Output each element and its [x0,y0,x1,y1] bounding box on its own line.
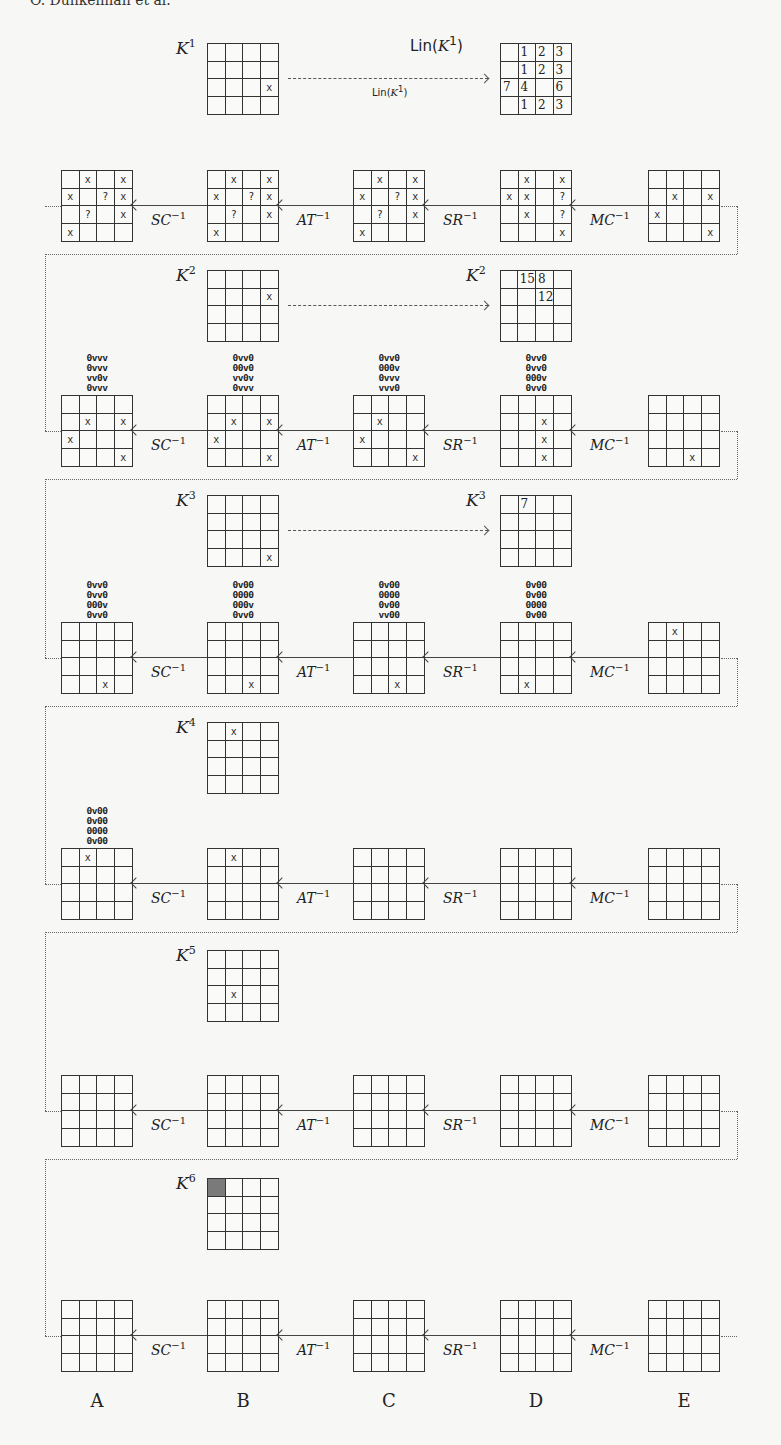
state-byte-cell [649,676,667,694]
pattern-line: 0vvv [207,383,279,393]
state-byte-cell [226,289,244,307]
state-byte-cell [261,1129,279,1147]
state-byte-cell [97,171,115,189]
target-grid-0: 123123746123 [500,43,572,115]
op-label-SC: SC−1 [151,1115,186,1133]
state-byte-cell [554,1336,572,1354]
state-byte-cell [519,658,537,676]
state-byte-cell [554,496,572,514]
state-byte-cell [684,676,702,694]
state-byte-cell [226,62,244,80]
operation-arrow [133,883,207,884]
state-byte-cell [243,1214,261,1232]
state-byte-cell [372,224,390,242]
state-byte-cell [389,1094,407,1112]
state-byte-cell [243,224,261,242]
state-byte-cell [243,1004,261,1022]
state-byte-cell [354,849,372,867]
state-byte-cell [261,44,279,62]
state-byte-cell [536,902,554,920]
operation-arrow [572,883,648,884]
state-byte-cell [372,676,390,694]
state-byte-cell [62,902,80,920]
state-byte-cell [62,641,80,659]
state-byte-cell [226,676,244,694]
state-byte-cell [243,514,261,532]
difference-pattern: 0v000v0000000v00 [61,806,133,846]
state-byte-cell [501,549,519,567]
state-byte-cell [554,396,572,414]
state-byte-cell [261,1076,279,1094]
state-byte-cell: x [80,849,98,867]
state-byte-cell [536,189,554,207]
state-byte-cell [261,271,279,289]
op-label-AT: AT−1 [297,888,330,906]
state-byte-cell [649,171,667,189]
pattern-line: 0vv0 [500,383,572,393]
state-byte-cell [261,623,279,641]
state-byte-cell [243,97,261,115]
state-byte-cell [243,79,261,97]
state-byte-cell [62,414,80,432]
state-byte-cell [80,1301,98,1319]
state-byte-cell [354,902,372,920]
state-byte-cell [62,1129,80,1147]
dotted-connector [45,254,46,431]
state-grid-C [353,1300,425,1372]
state-byte-cell [554,641,572,659]
state-byte-cell [501,289,518,307]
dotted-connector [721,884,737,885]
state-byte-cell: 7 [519,496,537,514]
state-byte-cell [501,1336,519,1354]
state-byte-cell [649,902,667,920]
state-byte-cell [702,1336,720,1354]
state-byte-cell [354,1336,372,1354]
state-byte-cell [261,776,279,794]
state-byte-cell [261,1179,279,1197]
state-byte-cell [372,1094,390,1112]
op-label-SC: SC−1 [151,1340,186,1358]
state-byte-cell [389,1336,407,1354]
state-byte-cell [407,1336,425,1354]
state-byte-cell [243,1111,261,1129]
state-byte-cell [208,306,226,324]
state-byte-cell [243,951,261,969]
column-label-A: A [61,1390,133,1411]
state-byte-cell [208,396,226,414]
state-byte-cell [519,1354,537,1372]
state-byte-cell [62,171,80,189]
state-byte-cell [208,1094,226,1112]
state-byte-cell [80,1129,98,1147]
state-byte-cell [372,189,390,207]
state-byte-cell [407,884,425,902]
state-byte-cell [554,514,572,532]
state-byte-cell [372,623,390,641]
state-byte-cell [536,1354,554,1372]
state-byte-cell [62,623,80,641]
state-byte-cell [519,414,537,432]
state-byte-cell [684,1129,702,1147]
state-byte-cell [226,97,244,115]
state-byte-cell: x [115,171,133,189]
operation-arrow [133,1335,207,1336]
state-byte-cell [372,1301,390,1319]
state-byte-cell: 3 [554,97,572,115]
state-byte-cell [684,902,702,920]
state-byte-cell [554,289,571,307]
state-byte-cell: x [261,449,279,467]
state-byte-cell: x [226,723,244,741]
state-byte-cell [372,849,390,867]
state-byte-cell [261,1354,279,1372]
state-byte-cell [389,224,407,242]
state-byte-cell [115,902,133,920]
state-byte-cell [536,396,554,414]
state-byte-cell: x [536,431,554,449]
key-grid-K1: x [207,43,279,115]
state-byte-cell [554,902,572,920]
state-byte-cell: 2 [536,62,554,80]
state-byte-cell [518,324,536,342]
state-byte-cell [501,396,519,414]
state-byte-cell [80,189,98,207]
state-byte-cell [354,206,372,224]
state-byte-cell [372,902,390,920]
